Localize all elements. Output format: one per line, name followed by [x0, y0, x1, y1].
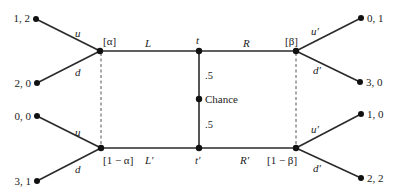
terminal-node [34, 80, 40, 86]
edge-left-bottom-u [37, 116, 101, 148]
payoff-right-bottom-d: 2, 2 [367, 172, 384, 184]
action-left-bottom-d: d [75, 163, 81, 175]
payoff-left-top-d: 2, 0 [15, 77, 32, 89]
terminal-node [34, 178, 40, 184]
terminal-node [357, 79, 363, 85]
node-receiver-left-top [97, 48, 103, 54]
action-right-top-u: u′ [311, 25, 320, 37]
edge-right-top-u [296, 18, 361, 51]
terminal-node [34, 113, 40, 119]
action-right-bottom-u: u′ [311, 123, 320, 135]
belief-one-minus-alpha: [1 − α] [103, 154, 133, 166]
node-type-t-prime [196, 145, 202, 151]
edge-right-bottom-u [296, 114, 361, 148]
node-receiver-left-bottom [98, 145, 104, 151]
edge-right-top-d [296, 51, 360, 82]
type-t-label: t [196, 34, 200, 46]
action-left-top-u: u [75, 27, 81, 39]
sender-action-L: L [144, 37, 151, 49]
sender-action-R-prime: R′ [239, 154, 250, 166]
edge-right-bottom-d [296, 148, 361, 178]
node-chance [196, 96, 202, 102]
chance-prob-up: .5 [205, 70, 213, 81]
payoff-left-bottom-d: 3, 1 [15, 175, 32, 187]
belief-beta: [β] [285, 35, 298, 47]
edge-left-top-u [36, 19, 100, 51]
node-type-t [196, 48, 202, 54]
belief-alpha: [α] [103, 35, 116, 47]
payoff-left-top-u: 1, 2 [14, 12, 31, 24]
action-right-bottom-d: d′ [313, 162, 322, 174]
chance-label: Chance [205, 93, 238, 105]
terminal-node [358, 111, 364, 117]
action-left-top-d: d [75, 66, 81, 78]
game-tree: 1, 2 2, 0 0, 0 3, 1 0, 1 3, 0 1, 0 2, 2 … [0, 0, 400, 195]
sender-action-R: R [242, 37, 250, 49]
node-receiver-right-top [293, 48, 299, 54]
chance-prob-down: .5 [205, 119, 213, 130]
type-t-prime-label: t′ [195, 154, 201, 166]
payoff-right-bottom-u: 1, 0 [367, 108, 384, 120]
terminal-node [358, 175, 364, 181]
edge-left-bottom-d [37, 148, 101, 181]
action-left-bottom-u: u [75, 126, 81, 138]
terminal-node [358, 15, 364, 21]
sender-action-L-prime: L′ [144, 154, 154, 166]
node-receiver-right-bottom [293, 145, 299, 151]
action-right-top-d: d′ [313, 64, 322, 76]
payoff-left-bottom-u: 0, 0 [15, 110, 32, 122]
payoff-right-top-u: 0, 1 [367, 12, 384, 24]
terminal-node [33, 16, 39, 22]
edge-left-top-d [37, 51, 100, 83]
belief-one-minus-beta: [1 − β] [267, 154, 297, 166]
payoff-right-top-d: 3, 0 [366, 76, 383, 88]
